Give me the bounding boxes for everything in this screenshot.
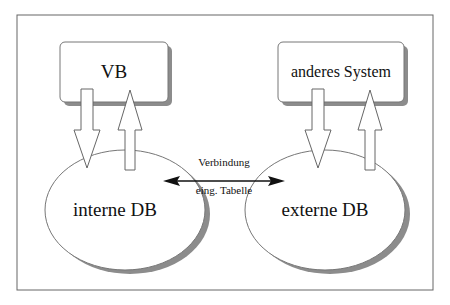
connection-label-below: eing. Tabelle bbox=[196, 184, 253, 196]
vb-label: VB bbox=[101, 61, 127, 82]
connection-label-above: Verbindung bbox=[198, 156, 250, 168]
interne-db-label: interne DB bbox=[73, 199, 157, 220]
externe-db-label: externe DB bbox=[281, 199, 368, 220]
node-vb: VB bbox=[60, 42, 172, 106]
anderes-system-label: anderes System bbox=[291, 63, 392, 81]
diagram-canvas: VB anderes System interne DB externe DB … bbox=[0, 0, 450, 305]
node-anderes-system: anderes System bbox=[278, 42, 408, 106]
